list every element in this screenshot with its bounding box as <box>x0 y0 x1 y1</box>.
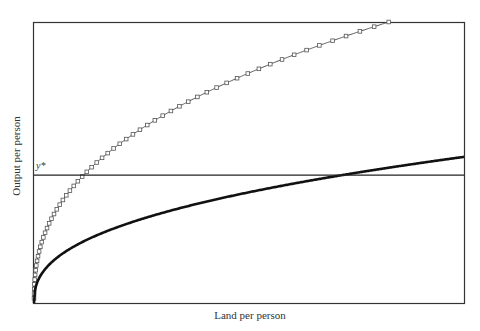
square-marker <box>42 236 46 240</box>
square-marker <box>35 259 39 263</box>
square-marker <box>33 273 37 277</box>
square-marker <box>124 137 128 141</box>
square-marker <box>318 44 322 48</box>
square-marker <box>100 156 104 160</box>
square-marker <box>118 142 122 146</box>
square-marker <box>169 109 173 113</box>
square-marker <box>225 81 229 85</box>
low-curve <box>34 157 464 303</box>
square-marker <box>47 222 51 226</box>
square-marker <box>186 100 190 104</box>
square-marker <box>372 25 376 29</box>
square-marker <box>280 58 284 62</box>
square-marker <box>33 278 37 282</box>
square-marker <box>39 245 43 249</box>
square-marker <box>35 264 39 268</box>
square-marker <box>205 90 209 94</box>
y-axis-label: Output per person <box>10 106 22 206</box>
square-marker <box>153 119 157 123</box>
square-marker <box>161 114 165 118</box>
chart-svg <box>0 0 480 331</box>
square-marker <box>268 62 272 66</box>
square-marker <box>45 226 49 230</box>
square-marker <box>112 147 116 151</box>
square-marker <box>196 95 200 99</box>
ystar-label: y* <box>36 160 45 171</box>
square-marker <box>85 170 89 174</box>
square-marker <box>52 212 56 216</box>
square-marker <box>34 268 38 272</box>
square-marker <box>331 39 335 43</box>
square-marker <box>131 133 135 137</box>
square-marker <box>37 250 41 254</box>
square-marker <box>106 151 110 155</box>
square-marker <box>76 179 80 183</box>
square-marker <box>387 20 391 24</box>
square-marker <box>138 128 142 132</box>
square-marker <box>178 105 182 109</box>
square-marker <box>344 34 348 38</box>
square-marker <box>235 76 239 80</box>
square-marker <box>292 53 296 57</box>
high-curve <box>34 22 388 303</box>
square-marker <box>36 254 40 258</box>
square-marker <box>257 67 261 71</box>
square-marker <box>145 123 149 127</box>
square-marker <box>58 203 62 207</box>
square-marker <box>95 161 99 165</box>
square-marker <box>358 30 362 34</box>
square-marker <box>43 231 47 235</box>
square-marker <box>246 72 250 76</box>
x-axis-label: Land per person <box>200 309 300 321</box>
square-marker <box>64 193 68 197</box>
square-marker <box>55 208 59 212</box>
square-marker <box>215 86 219 90</box>
square-marker <box>90 165 94 169</box>
square-marker <box>68 189 72 193</box>
square-marker <box>305 48 309 52</box>
square-marker <box>61 198 65 202</box>
square-marker <box>40 240 44 244</box>
square-marker <box>50 217 54 221</box>
square-marker <box>72 184 76 188</box>
